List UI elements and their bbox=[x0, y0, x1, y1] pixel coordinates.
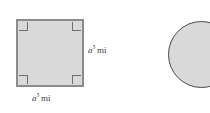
right-angle-marker-top-left bbox=[19, 22, 28, 31]
label-right-unit: mi bbox=[97, 45, 107, 55]
right-angle-marker-top-right bbox=[72, 22, 81, 31]
square-side-label-bottom: a5mi bbox=[32, 92, 51, 103]
label-bottom-exponent: 5 bbox=[37, 92, 40, 98]
right-angle-marker-bottom-left bbox=[19, 75, 28, 84]
label-bottom-unit: mi bbox=[41, 93, 51, 103]
square-side-label-right: a5mi bbox=[88, 44, 107, 55]
circle-shape bbox=[168, 21, 210, 88]
geometry-figure: a5mi a5mi bbox=[0, 0, 210, 113]
right-angle-marker-bottom-right bbox=[72, 75, 81, 84]
square-figure bbox=[16, 19, 84, 87]
label-right-exponent: 5 bbox=[93, 44, 96, 50]
